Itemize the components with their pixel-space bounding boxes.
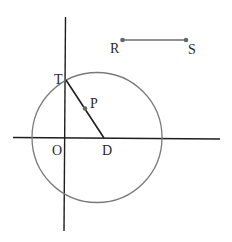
label-o: O <box>52 143 62 158</box>
label-s: S <box>188 42 196 57</box>
vertical-axis <box>64 17 66 231</box>
label-t: T <box>54 72 63 87</box>
geometry-diagram: T P O D R S <box>0 0 232 242</box>
label-p: P <box>90 96 98 111</box>
point-r-dot <box>120 38 125 43</box>
point-p-dot <box>83 106 88 111</box>
horizontal-axis <box>13 138 220 140</box>
label-r: R <box>110 41 120 56</box>
label-d: D <box>102 143 112 158</box>
